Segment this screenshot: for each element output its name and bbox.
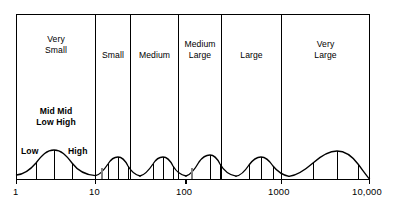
- axis-tick-label-1000: 1000: [268, 186, 290, 197]
- curve-very-large: [289, 151, 370, 179]
- axis-tick-label-100: 100: [176, 186, 192, 197]
- axis-tick-label-1: 1: [13, 186, 18, 197]
- category-label-small: Small: [96, 50, 130, 61]
- axis-tick-label-10000: 10,000: [352, 186, 382, 197]
- sub-band-label-low: Low: [21, 146, 38, 156]
- category-label-medium-large: Medium Large: [178, 39, 222, 60]
- axis-tick-stubs: [17, 180, 370, 185]
- axis-tick-label-10: 10: [89, 186, 100, 197]
- category-label-large: Large: [222, 50, 281, 61]
- category-label-very-small: Very Small: [17, 34, 95, 55]
- category-label-medium: Medium: [131, 50, 178, 61]
- category-label-very-large: Very Large: [282, 39, 369, 60]
- size-category-chart: Very Small Small Medium Medium Large Lar…: [0, 0, 402, 214]
- sub-band-label-mid-stack: Mid Mid Low High: [17, 106, 95, 127]
- sub-band-label-high: High: [68, 146, 88, 156]
